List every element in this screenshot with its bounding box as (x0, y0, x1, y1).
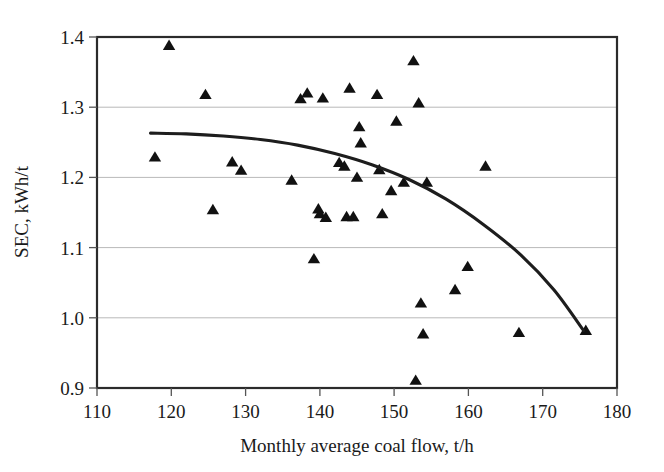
scatter-chart-svg: 110 120 130 140 150 160 170 180 0.9 1.0 … (0, 0, 664, 472)
data-point-marker (317, 92, 329, 102)
y-tick-label-1-3: 1.3 (60, 97, 84, 118)
y-axis-tick-labels: 0.9 1.0 1.1 1.2 1.3 1.4 (60, 27, 84, 399)
data-point-marker (385, 185, 397, 195)
x-axis-tick-labels: 110 120 130 140 150 160 170 180 (83, 401, 631, 422)
data-point-marker (207, 204, 219, 214)
y-tick-label-1-2: 1.2 (60, 167, 84, 188)
data-point-marker (199, 89, 211, 99)
plot-frame (97, 37, 617, 388)
data-point-marker (351, 172, 363, 182)
data-point-marker (226, 156, 238, 166)
x-tick-label-120: 120 (157, 401, 186, 422)
data-markers (149, 40, 592, 385)
gridlines (97, 107, 617, 318)
data-point-marker (355, 137, 367, 147)
data-point-marker (301, 87, 313, 97)
y-axis-title: SEC, kWh/t (11, 165, 32, 258)
data-point-marker (417, 328, 429, 338)
y-tick-label-0-9: 0.9 (60, 378, 84, 399)
x-axis-title: Monthly average coal flow, t/h (240, 435, 474, 456)
data-point-marker (412, 97, 424, 107)
x-tick-label-140: 140 (306, 401, 335, 422)
data-point-marker (390, 115, 402, 125)
x-tick-label-130: 130 (231, 401, 260, 422)
y-tick-label-1-1: 1.1 (60, 238, 84, 259)
data-point-marker (163, 40, 175, 50)
data-point-marker (149, 151, 161, 161)
x-tick-label-110: 110 (83, 401, 111, 422)
data-point-marker (371, 89, 383, 99)
data-point-marker (415, 297, 427, 307)
data-point-marker (513, 327, 525, 337)
data-point-marker (308, 253, 320, 263)
y-axis-ticks (89, 37, 97, 388)
trend-line (150, 133, 583, 330)
x-tick-label-150: 150 (380, 401, 409, 422)
data-point-marker (407, 55, 419, 65)
chart-figure: 110 120 130 140 150 160 170 180 0.9 1.0 … (0, 0, 664, 472)
data-point-marker (285, 174, 297, 184)
data-point-marker (343, 82, 355, 92)
y-tick-label-1-0: 1.0 (60, 308, 84, 329)
x-tick-label-160: 160 (454, 401, 483, 422)
data-point-marker (409, 374, 421, 384)
data-point-marker (461, 261, 473, 271)
y-tick-label-1-4: 1.4 (60, 27, 84, 48)
data-point-marker (449, 284, 461, 294)
data-point-marker (353, 121, 365, 131)
x-axis-ticks (97, 388, 617, 396)
x-tick-label-180: 180 (603, 401, 632, 422)
x-tick-label-170: 170 (528, 401, 557, 422)
data-point-marker (376, 208, 388, 218)
data-point-marker (479, 160, 491, 170)
